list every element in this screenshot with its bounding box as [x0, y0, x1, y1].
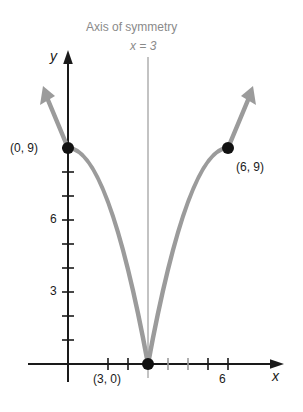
- point-3-0-marker: [142, 358, 154, 370]
- axis-of-symmetry-title: Axis of symmetry: [86, 20, 177, 34]
- point-label-6-9: (6, 9): [236, 160, 264, 174]
- point-0-9-marker: [62, 142, 74, 154]
- y-tick-label-6: 6: [50, 212, 57, 226]
- x-tick-label-6: 6: [219, 372, 226, 386]
- y-tick-label-3: 3: [50, 284, 57, 298]
- axis-of-symmetry-value: x = 3: [130, 39, 156, 53]
- point-label-0-9: (0, 9): [10, 141, 38, 155]
- chart-canvas: [0, 0, 303, 412]
- parabola-right-arm: [228, 100, 248, 148]
- point-label-3-0: (3, 0): [93, 372, 121, 386]
- parabola-left-arm: [48, 100, 68, 148]
- y-axis-label: y: [50, 48, 57, 64]
- x-axis-label: x: [272, 368, 279, 384]
- y-axis-arrow: [63, 50, 73, 64]
- parabola-figure: Axis of symmetry x = 3: [0, 0, 303, 412]
- point-6-9-marker: [222, 142, 234, 154]
